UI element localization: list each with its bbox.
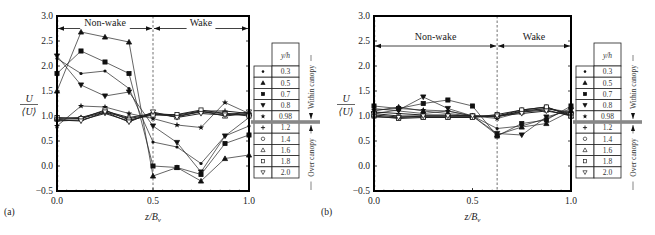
arrowhead-right-icon (564, 44, 570, 49)
marker-square-icon (421, 101, 425, 105)
marker-square-icon (79, 49, 83, 53)
marker-dot-icon (103, 69, 106, 72)
x-axis-label: z/Bv (144, 211, 162, 224)
marker-square-icon (223, 141, 227, 145)
x-tick-label: 0.5 (147, 196, 159, 206)
legend-value: 1.6 (281, 146, 291, 155)
marker-square-icon (103, 60, 107, 64)
within-canopy-label: Within canopy (307, 65, 316, 109)
arrowhead-right-icon (490, 44, 496, 49)
region-label-non-wake: Non-wake (415, 31, 457, 42)
y-axis-label-numerator: U (342, 93, 350, 104)
arrow-down-icon (309, 113, 313, 119)
marker-square-icon (520, 121, 524, 125)
legend-value: 0.98 (601, 112, 614, 121)
legend-value: 1.6 (603, 146, 613, 155)
legend-value: 1.4 (603, 135, 613, 144)
y-tick-label: 1.5 (358, 86, 370, 96)
legend-value: 1.8 (281, 157, 291, 166)
x-tick-label: 1.0 (243, 196, 255, 206)
panel-label: (a) (4, 207, 15, 218)
legend-value: 2.0 (281, 168, 291, 177)
y-tick-label: 1.0 (41, 111, 53, 121)
region-label-non-wake: Non-wake (84, 17, 126, 28)
marker-square-icon (544, 105, 548, 109)
marker-triangle-down-icon (102, 94, 107, 99)
plot-frame (374, 16, 571, 191)
region-label-wake: Wake (523, 31, 546, 42)
marker-dot-icon (199, 162, 202, 165)
marker-dot-icon (262, 70, 265, 73)
x-tick-label: 0.0 (368, 196, 380, 206)
x-tick-label: 1.0 (565, 196, 577, 206)
y-tick-label: 2.0 (358, 61, 370, 71)
legend-value: 0.3 (281, 67, 291, 76)
legend-header: y/h (602, 51, 612, 60)
y-tick-label: −0.5 (353, 186, 370, 196)
legend-value: 0.5 (603, 79, 613, 88)
chart-panel-a: −0.50.00.51.01.52.02.53.00.00.51.0Non-wa… (4, 11, 320, 224)
over-canopy-label: Over canopy (629, 138, 638, 177)
marker-dot-icon (151, 140, 154, 143)
marker-square-icon (470, 104, 474, 108)
arrow-up-icon (309, 125, 313, 131)
chart-panel-b: −0.50.00.51.01.52.02.53.00.00.51.0Non-wa… (321, 11, 642, 224)
legend-value: 0.8 (281, 101, 291, 110)
marker-square-icon (127, 71, 131, 75)
marker-circle-icon (583, 137, 587, 141)
arrow-down-icon (631, 113, 635, 119)
legend-value: 0.3 (603, 67, 613, 76)
y-tick-label: 0.5 (358, 136, 370, 146)
y-tick-label: 3.0 (358, 11, 370, 21)
x-axis-label: z/Bv (464, 211, 482, 224)
y-tick-label: 2.5 (358, 36, 370, 46)
legend-table: y/h0.30.50.70.80.981.21.41.61.82.0Within… (573, 43, 642, 190)
y-tick-label: 2.5 (41, 36, 53, 46)
y-axis-label-denominator: ⟨U⟩ (338, 106, 353, 117)
region-label-wake: Wake (190, 17, 213, 28)
legend-value: 2.0 (603, 168, 613, 177)
y-tick-label: 0.0 (41, 161, 53, 171)
marker-circle-icon (261, 137, 265, 141)
marker-dot-icon (584, 70, 587, 73)
marker-square-icon (583, 160, 586, 163)
y-axis-label-numerator: U (25, 93, 33, 104)
arrowhead-right-icon (242, 26, 248, 31)
legend-table: y/h0.30.50.70.80.981.21.41.61.82.0Within… (251, 43, 320, 190)
x-tick-label: 0.0 (51, 196, 63, 206)
legend-value: 1.4 (281, 135, 291, 144)
marker-triangle-down-icon (150, 124, 155, 129)
marker-triangle-down-icon (519, 133, 524, 138)
over-canopy-label: Over canopy (307, 138, 316, 177)
y-tick-label: 0.5 (41, 136, 53, 146)
legend-value: 0.98 (279, 112, 292, 121)
arrowhead-left-icon (498, 44, 504, 49)
marker-square-icon (261, 92, 264, 95)
y-axis-label-denominator: ⟨U⟩ (21, 106, 36, 117)
marker-star-icon (174, 122, 180, 128)
marker-dot-icon (79, 72, 82, 75)
marker-square-icon (261, 160, 264, 163)
marker-square-icon (583, 92, 586, 95)
arrowhead-right-icon (146, 26, 152, 31)
y-tick-label: 1.5 (41, 86, 53, 96)
figure: −0.50.00.51.01.52.02.53.00.00.51.0Non-wa… (0, 0, 655, 235)
marker-square-icon (151, 164, 155, 168)
arrowhead-left-icon (375, 44, 381, 49)
arrow-up-icon (631, 125, 635, 131)
legend-value: 1.8 (603, 157, 613, 166)
legend-header: y/h (280, 51, 290, 60)
y-tick-label: 0.0 (358, 161, 370, 171)
legend-value: 0.8 (603, 101, 613, 110)
canopy-boundary-bar (573, 120, 642, 124)
y-tick-label: 1.0 (358, 111, 370, 121)
y-tick-label: −0.5 (36, 186, 53, 196)
x-tick-label: 0.5 (467, 196, 479, 206)
marker-square-icon (175, 165, 179, 169)
panel-label: (b) (321, 207, 332, 218)
legend-value: 1.2 (281, 123, 291, 132)
within-canopy-label: Within canopy (629, 65, 638, 109)
legend-value: 0.5 (281, 79, 291, 88)
y-tick-label: 2.0 (41, 61, 53, 71)
arrowhead-left-icon (58, 26, 64, 31)
